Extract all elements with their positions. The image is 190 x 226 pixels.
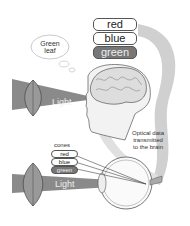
cone-pill-blue: blue (51, 158, 78, 166)
thought-line-2: leaf (36, 47, 64, 54)
thought-text: Green leaf (36, 40, 64, 54)
brain-pill-red: red (93, 18, 137, 31)
brain-pill-blue: blue (93, 32, 137, 45)
transmission-caption: Optical data transmitted to the brain (126, 130, 170, 151)
cones-title: cones (54, 142, 70, 148)
eyeball-icon (98, 157, 162, 209)
thought-line-1: Green (36, 40, 64, 47)
top-light-label: Light (52, 98, 72, 107)
bottom-light-label: Light (55, 180, 75, 189)
caption-line-2: transmitted (126, 137, 170, 144)
cone-pill-green: green (51, 166, 78, 174)
caption-line-1: Optical data (126, 130, 170, 137)
brain-icon (90, 68, 146, 105)
thought-dot (69, 68, 75, 72)
caption-line-3: to the brain (126, 144, 170, 151)
thought-dot (59, 61, 69, 67)
bottom-leaf-icon (23, 163, 43, 206)
brain-pill-green: green (93, 46, 137, 59)
cone-pill-red: red (51, 150, 78, 158)
top-light-beam (12, 79, 88, 110)
